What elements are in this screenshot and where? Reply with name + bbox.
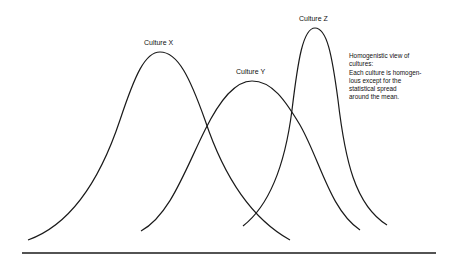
note-line: Homogenistic view of [349,52,449,60]
label-culture-y: Culture Y [236,68,265,75]
note-line: statistical spread [349,85,449,93]
note-line: cultures: [349,60,449,68]
note-line: around the mean. [349,93,449,101]
curves-svg [0,0,454,261]
note-line: lous except for the [349,77,449,85]
label-culture-z: Culture Z [299,15,328,22]
diagram-canvas: Culture X Culture Y Culture Z Homogenist… [0,0,454,261]
note-line: Each culture is homogen- [349,69,449,77]
curve-culture-y [141,81,360,231]
label-culture-x: Culture X [144,39,173,46]
curve-culture-x [28,52,290,240]
explanatory-note: Homogenistic view of cultures: Each cult… [349,52,449,102]
